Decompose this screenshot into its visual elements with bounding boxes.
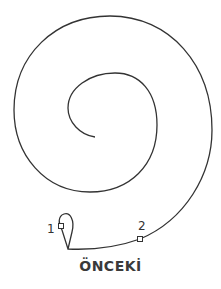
spiral-curve xyxy=(14,16,212,249)
point-1-marker xyxy=(59,224,64,229)
point-2-marker xyxy=(138,237,143,242)
point-1-label: 1 xyxy=(47,222,55,236)
spiral-diagram xyxy=(0,0,221,289)
diagram-title: ÖNCEKİ xyxy=(0,258,221,274)
point-2-label: 2 xyxy=(138,219,146,233)
